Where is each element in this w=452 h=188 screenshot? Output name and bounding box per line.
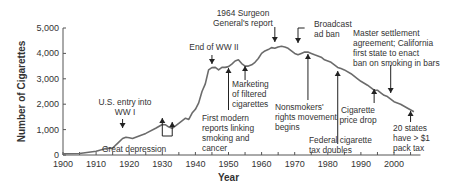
wwi-label: U.S. entry intoWW I	[98, 97, 151, 117]
x-tick-label: 1990	[351, 159, 371, 169]
x-tick-label: 1910	[86, 159, 106, 169]
y-tick-label: 0	[54, 150, 59, 160]
broadcast-label-line: Broadcast	[314, 19, 352, 29]
msa-label-line: ban on smoking in bars	[353, 58, 440, 68]
surgeon-label: 1964 SurgeonGeneral's report	[213, 8, 273, 28]
x-tick-label: 1930	[152, 159, 172, 169]
depression-2-arrow-icon	[169, 122, 175, 127]
x-tick-label: 1970	[285, 159, 305, 169]
reports-label: First modernreports linkingsmoking andca…	[202, 113, 254, 153]
x-tick-label: 2000	[384, 159, 404, 169]
y-tick-label: 5,000	[36, 23, 59, 33]
y-axis-title: Number of Cigarettes	[16, 40, 27, 142]
msa-label-line: first state to enact	[353, 48, 420, 58]
surgeon-label-line: 1964 Surgeon	[217, 8, 270, 18]
reports-label-line: cancer	[202, 143, 227, 153]
nonsmokers-label: Nonsmokers'rights movementbegins	[275, 102, 338, 132]
pricedrop-label-line: Cigarette	[341, 105, 375, 115]
fedtax-label-line: Federal cigarette	[309, 135, 372, 145]
cigarette-consumption-chart: 1900191019201930194019501960197019801990…	[0, 0, 452, 188]
y-tick-label: 2,000	[36, 99, 59, 109]
broadcast-label-line: ad ban	[314, 29, 340, 39]
pricedrop-label-line: price drop	[339, 115, 377, 125]
wwi-arrow-icon	[120, 123, 126, 128]
msa-label-line: Master settlement	[353, 28, 420, 38]
y-tick-label: 1,000	[36, 125, 59, 135]
states-label-line: pack tax	[393, 143, 425, 153]
nonsmokers-label-line: rights movement	[275, 112, 338, 122]
chart-canvas: 1900191019201930194019501960197019801990…	[0, 0, 452, 188]
msa-label-line: agreement; California	[353, 38, 433, 48]
depression-label: Great depression	[102, 144, 167, 154]
filtered-label-line: of filtered	[232, 89, 267, 99]
wwii-label: End of WW II	[189, 42, 238, 52]
msa-arrow-icon	[388, 88, 394, 93]
pricedrop-label: Cigaretteprice drop	[339, 105, 377, 125]
surgeon-arrow-icon	[272, 37, 278, 42]
states-label: 20 stateshave > $1pack tax	[393, 123, 430, 153]
depression-1-arrow-icon	[159, 118, 165, 123]
filtered-label-line: Marketing	[232, 79, 269, 89]
fedtax-label-line: tax doubles	[309, 145, 352, 155]
reports-label-line: First modern	[202, 113, 249, 123]
nonsmokers-label-line: begins	[275, 122, 300, 132]
broadcast-connector	[298, 28, 305, 30]
x-tick-label: 1980	[318, 159, 338, 169]
states-label-line: 20 states	[393, 123, 427, 133]
x-tick-label: 1950	[218, 159, 238, 169]
broadcast-label: Broadcastad ban	[314, 19, 352, 39]
msa-label: Master settlementagreement; Californiafi…	[353, 28, 440, 68]
x-tick-label: 1960	[252, 159, 272, 169]
reports-label-line: smoking and	[202, 133, 250, 143]
wwii-arrow-icon	[209, 59, 215, 64]
y-tick-label: 4,000	[36, 48, 59, 58]
reports-arrow-icon	[226, 68, 232, 73]
nonsmokers-label-line: Nonsmokers'	[275, 102, 324, 112]
annotations: U.S. entry intoWW IGreat depressionEnd o…	[98, 8, 439, 155]
reports-label-line: reports linking	[202, 123, 254, 133]
depression-label-line: Great depression	[102, 144, 167, 154]
surgeon-label-line: General's report	[213, 18, 273, 28]
wwi-label-line: WW I	[115, 107, 135, 117]
filtered-label: Marketingof filteredcigarettes	[232, 79, 269, 109]
nonsmokers-arrow-icon	[305, 54, 311, 59]
x-axis-title: Year	[218, 172, 239, 183]
x-tick-label: 1900	[53, 159, 73, 169]
y-tick-label: 3,000	[36, 74, 59, 84]
filtered-label-line: cigarettes	[232, 99, 268, 109]
wwii-label-line: End of WW II	[189, 42, 238, 52]
x-tick-label: 1920	[119, 159, 139, 169]
broadcast-arrow-icon	[295, 38, 301, 43]
states-label-line: have > $1	[393, 133, 430, 143]
fedtax-label: Federal cigarettetax doubles	[309, 135, 372, 155]
fedtax-arrow-icon	[335, 71, 341, 76]
wwi-label-line: U.S. entry into	[98, 97, 151, 107]
x-tick-label: 1940	[185, 159, 205, 169]
